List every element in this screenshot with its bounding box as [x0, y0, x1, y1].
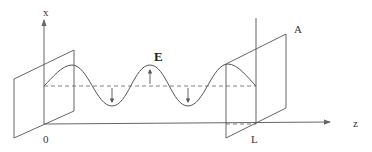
origin-label: 0 [43, 133, 49, 145]
area-label: A [294, 23, 302, 35]
z-axis-label: z [353, 117, 358, 129]
x-axis-label: x [43, 6, 49, 18]
length-label: L [251, 133, 258, 145]
standing-wave-diagram: x z 0 L A E [0, 0, 372, 152]
field-label: E [154, 49, 163, 64]
z-axis [44, 122, 330, 124]
